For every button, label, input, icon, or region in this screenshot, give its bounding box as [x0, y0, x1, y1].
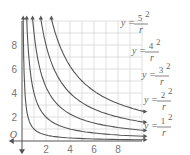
- label-2: y =22r: [143, 86, 173, 112]
- svg-text:8: 8: [11, 40, 17, 51]
- svg-text:6: 6: [91, 144, 97, 155]
- svg-text:r: r: [160, 76, 164, 87]
- svg-text:6: 6: [11, 64, 17, 75]
- svg-text:2: 2: [168, 112, 173, 122]
- label-5: y =52r: [120, 9, 150, 35]
- svg-text:y =: y =: [143, 120, 158, 131]
- curve-3: [33, 19, 145, 131]
- curve-1: [23, 19, 144, 140]
- svg-text:r: r: [150, 52, 154, 63]
- svg-text:2: 2: [156, 37, 161, 47]
- svg-text:1: 1: [161, 116, 166, 126]
- hyperbola-chart: 24682468O y =52ry =42ry =32ry =22ry =12r: [0, 0, 190, 155]
- svg-text:5: 5: [138, 13, 143, 23]
- svg-text:2: 2: [11, 112, 17, 123]
- svg-text:4: 4: [11, 88, 17, 99]
- svg-text:r: r: [139, 24, 143, 35]
- svg-text:y =: y =: [143, 94, 158, 105]
- svg-text:2: 2: [43, 144, 49, 155]
- curve-5: [51, 19, 144, 112]
- label-3: y =32r: [141, 61, 171, 87]
- svg-text:8: 8: [115, 144, 121, 155]
- svg-text:2: 2: [161, 90, 166, 100]
- curve-4: [41, 19, 145, 123]
- curves: [21, 16, 147, 142]
- svg-text:2: 2: [168, 86, 173, 96]
- svg-text:y =: y =: [131, 45, 146, 56]
- svg-text:4: 4: [149, 41, 154, 51]
- axes: [9, 21, 142, 154]
- label-4: y =42r: [131, 37, 161, 63]
- svg-text:2: 2: [166, 61, 171, 71]
- svg-text:2: 2: [145, 9, 150, 19]
- svg-text:O: O: [10, 129, 17, 140]
- svg-text:3: 3: [159, 65, 164, 75]
- svg-text:4: 4: [67, 144, 73, 155]
- label-1: y =12r: [143, 112, 173, 138]
- svg-text:r: r: [162, 101, 166, 112]
- svg-text:y =: y =: [120, 17, 135, 28]
- svg-text:r: r: [162, 127, 166, 138]
- svg-text:y =: y =: [141, 69, 156, 80]
- curve-labels: y =52ry =42ry =32ry =22ry =12r: [120, 9, 173, 138]
